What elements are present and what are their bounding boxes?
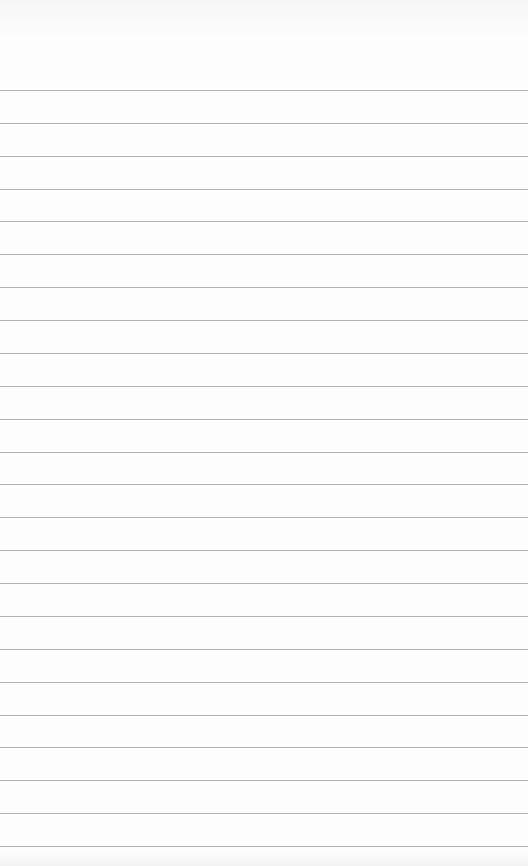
lined-paper-page	[0, 0, 528, 866]
ruled-line	[0, 616, 528, 617]
ruled-line	[0, 583, 528, 584]
ruled-line	[0, 813, 528, 814]
ruled-line	[0, 715, 528, 716]
ruled-line	[0, 682, 528, 683]
ruled-line	[0, 353, 528, 354]
ruled-line	[0, 550, 528, 551]
ruled-line	[0, 123, 528, 124]
ruled-line	[0, 452, 528, 453]
ruled-line	[0, 156, 528, 157]
ruled-line	[0, 386, 528, 387]
ruled-line	[0, 846, 528, 847]
ruled-line	[0, 320, 528, 321]
ruled-line	[0, 287, 528, 288]
ruled-line	[0, 780, 528, 781]
ruled-line	[0, 90, 528, 91]
ruled-line	[0, 189, 528, 190]
ruled-line	[0, 517, 528, 518]
ruled-line	[0, 221, 528, 222]
ruled-line	[0, 649, 528, 650]
ruled-line	[0, 419, 528, 420]
ruled-line	[0, 747, 528, 748]
ruled-line	[0, 484, 528, 485]
ruled-line	[0, 254, 528, 255]
